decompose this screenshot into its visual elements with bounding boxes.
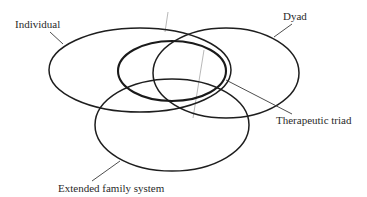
individual-leader-line bbox=[50, 32, 63, 44]
triad-leader-line bbox=[226, 80, 292, 114]
therapeutic-triad-ellipse bbox=[118, 41, 226, 101]
individual-label: Individual bbox=[15, 18, 60, 30]
venn-diagram: Individual Dyad Therapeutic triad Extend… bbox=[0, 0, 367, 197]
extended-family-leader-line bbox=[92, 161, 120, 181]
therapeutic-triad-label: Therapeutic triad bbox=[276, 114, 352, 126]
individual-ellipse bbox=[49, 28, 231, 112]
extended-family-ellipse bbox=[95, 79, 249, 171]
extended-family-label: Extended family system bbox=[58, 182, 165, 194]
dyad-label: Dyad bbox=[283, 10, 307, 22]
dyad-leader-line bbox=[274, 24, 292, 37]
construction-line-center bbox=[193, 50, 204, 118]
